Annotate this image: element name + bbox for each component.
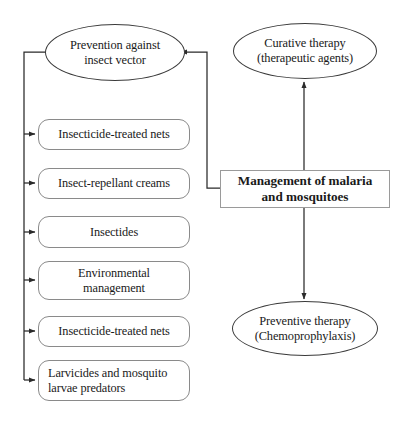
node-insecticide-treated-nets-2[interactable]: Insecticide-treated nets (38, 316, 190, 347)
connector-center-to-prevention (181, 52, 220, 188)
node-curative-therapy[interactable]: Curative therapy (therapeutic agents) (233, 23, 377, 79)
node-insectides-label: Insectides (85, 225, 143, 240)
node-curative-therapy-label: Curative therapy (therapeutic agents) (252, 36, 358, 65)
node-insecticide-treated-nets-2-label: Insecticide-treated nets (53, 324, 174, 339)
node-preventive-therapy[interactable]: Preventive therapy (Chemoprophylaxis) (232, 301, 378, 356)
flowchart-diagram: Prevention against insect vector Curativ… (0, 0, 406, 436)
node-insecticide-treated-nets-1[interactable]: Insecticide-treated nets (38, 119, 190, 150)
node-management-of-malaria-and-mosquitoes[interactable]: Management of malaria and mosquitoes (220, 170, 390, 208)
node-larvicides-and-predators[interactable]: Larvicides and mosquito larvae predators (38, 360, 190, 401)
node-prevention-against-insect-vector-label: Prevention against insect vector (65, 38, 165, 67)
node-management-label: Management of malaria and mosquitoes (233, 173, 377, 204)
node-prevention-against-insect-vector[interactable]: Prevention against insect vector (45, 24, 185, 81)
node-larvicides-and-predators-label: Larvicides and mosquito larvae predators (48, 366, 167, 395)
node-environmental-management-label: Environmental management (73, 266, 155, 295)
node-insect-repellant-creams-label: Insect-repellant creams (53, 176, 175, 191)
node-insecticide-treated-nets-1-label: Insecticide-treated nets (53, 127, 174, 142)
node-insect-repellant-creams[interactable]: Insect-repellant creams (38, 168, 190, 199)
node-preventive-therapy-label: Preventive therapy (Chemoprophylaxis) (250, 314, 361, 343)
node-environmental-management[interactable]: Environmental management (38, 261, 190, 300)
node-insectides[interactable]: Insectides (38, 216, 190, 248)
